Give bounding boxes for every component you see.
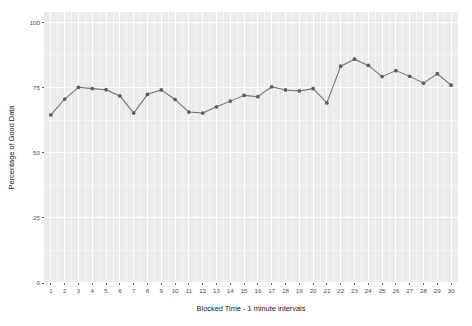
series-point <box>187 110 191 114</box>
x-tick-label: 10 <box>172 287 179 294</box>
x-tick-label: 18 <box>282 287 289 294</box>
x-tick-label: 1 <box>49 287 53 294</box>
series-point <box>353 57 357 61</box>
x-tick-label: 21 <box>323 287 330 294</box>
x-tick-label: 7 <box>132 287 136 294</box>
series-point <box>173 98 177 102</box>
series-point <box>159 88 163 92</box>
x-tick-label: 25 <box>379 287 386 294</box>
x-tick-label: 28 <box>420 287 427 294</box>
x-tick-label: 14 <box>227 287 234 294</box>
series-point <box>325 101 329 105</box>
gridlines <box>44 12 458 283</box>
series-point <box>339 64 343 68</box>
x-tick-label: 6 <box>118 287 122 294</box>
x-tick-label: 27 <box>406 287 413 294</box>
series-point <box>146 92 150 96</box>
x-tick-label: 2 <box>63 287 67 294</box>
x-tick-label: 24 <box>365 287 372 294</box>
series-point <box>118 94 122 98</box>
chart-figure: 0255075100 12345678910111213141516171819… <box>0 0 472 326</box>
x-tick-label: 16 <box>254 287 261 294</box>
series-point <box>408 74 412 78</box>
x-tick-label: 5 <box>104 287 108 294</box>
x-tick-label: 26 <box>392 287 399 294</box>
series-point <box>201 111 205 115</box>
y-tick-label: 50 <box>33 149 40 156</box>
x-tick-label: 15 <box>241 287 248 294</box>
series-point <box>422 81 426 85</box>
x-tick-label: 8 <box>146 287 150 294</box>
series-point <box>256 95 260 99</box>
x-tick-label: 30 <box>448 287 455 294</box>
series-point <box>297 89 301 93</box>
x-tick-label: 22 <box>337 287 344 294</box>
series-point <box>77 85 81 89</box>
x-tick-label: 9 <box>160 287 164 294</box>
line-chart-svg: 0255075100 12345678910111213141516171819… <box>0 0 472 326</box>
series-point <box>394 69 398 73</box>
series-point <box>311 87 315 91</box>
series-point <box>449 83 453 87</box>
series-point <box>284 88 288 92</box>
y-tick-label: 100 <box>30 19 41 26</box>
x-tick-label: 4 <box>91 287 95 294</box>
x-tick-label: 11 <box>186 287 193 294</box>
series-point <box>228 99 232 103</box>
x-tick-label: 3 <box>77 287 81 294</box>
x-tick-label: 20 <box>310 287 317 294</box>
x-tick-label: 13 <box>213 287 220 294</box>
series-point <box>215 105 219 109</box>
series-point <box>132 111 136 115</box>
x-axis-title: Blocked Time - 1 minute intervals <box>197 304 306 313</box>
x-tick-label: 17 <box>268 287 275 294</box>
y-tick-label: 25 <box>33 214 40 221</box>
series-point <box>90 87 94 91</box>
series-point <box>49 113 53 117</box>
x-tick-label: 29 <box>434 287 441 294</box>
x-tick-label: 12 <box>199 287 206 294</box>
series-point <box>380 75 384 79</box>
series-point <box>242 93 246 97</box>
y-tick-label: 0 <box>37 279 41 286</box>
x-tick-label: 19 <box>296 287 303 294</box>
y-axis-title: Percentage of Good Data <box>7 105 16 190</box>
y-tick-label: 75 <box>33 84 40 91</box>
series-point <box>63 97 67 101</box>
series-point <box>366 64 370 68</box>
series-point <box>435 72 439 76</box>
series-point <box>270 85 274 89</box>
series-point <box>104 88 108 92</box>
x-tick-label: 23 <box>351 287 358 294</box>
